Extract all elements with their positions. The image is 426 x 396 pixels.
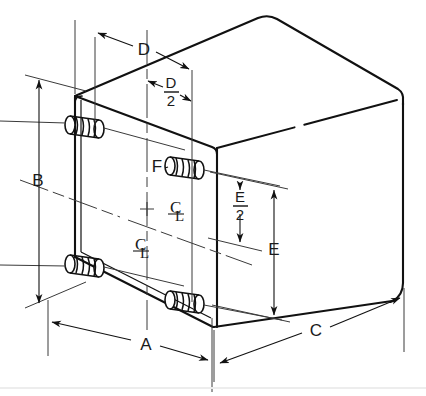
dimline-D2-left [148, 81, 163, 87]
leader-stud-bottomleft [104, 267, 184, 286]
ext-line-e-top [210, 172, 288, 189]
top-face-outline [75, 16, 403, 105]
dim-label-A: A [140, 335, 152, 354]
dim-label-E-over-2: E 2 [233, 188, 248, 223]
enclosure-body [75, 16, 403, 327]
dim-label-E2-denominator: 2 [236, 206, 244, 223]
ext-line-e-bottom [212, 305, 290, 322]
dim-label-F: F [152, 157, 162, 176]
center-cross-mark [140, 202, 154, 216]
dimline-C-right [330, 298, 400, 327]
stud-bottom-right [165, 291, 204, 313]
stud-top-right [165, 157, 204, 179]
top-face-front-edge [217, 100, 397, 148]
dimline-C-left [220, 333, 302, 363]
centerline-symbols: C L C L [133, 198, 184, 261]
technical-drawing: D D 2 B F E 2 E A C C L C L [0, 0, 426, 396]
isometric-drawing-canvas: D D 2 B F E 2 E A C C L C L [0, 0, 426, 396]
dim-label-D2-numerator: D [166, 74, 177, 91]
dim-label-E: E [268, 240, 279, 259]
ext-line-b-bottom [25, 282, 86, 308]
leader-stud-topright [204, 170, 280, 186]
right-face-back-edge [390, 103, 403, 302]
dim-label-D: D [138, 40, 150, 59]
centerline-symbol-horizontal: C L [168, 198, 184, 224]
leader-stud-topleft-out [0, 121, 66, 123]
centerline-symbol-horizontal-l: L [175, 208, 184, 224]
dimline-D-left [98, 33, 133, 46]
right-face-bottom-edge [214, 301, 392, 327]
dim-label-D2-denominator: 2 [167, 92, 175, 109]
centerlines [0, 20, 404, 392]
ext-line-b-top [25, 75, 86, 91]
dimline-D2-right [180, 95, 191, 101]
stud-bottom-left [65, 255, 104, 277]
centerline-symbol-vertical-l: L [140, 245, 149, 261]
dim-label-C: C [310, 321, 322, 340]
dimline-A-right [160, 346, 208, 360]
dimline-A-left [52, 322, 131, 340]
dimension-lines [39, 33, 400, 363]
dim-label-E2-numerator: E [235, 188, 245, 205]
leader-stud-topleft [104, 128, 185, 150]
dim-label-D-over-2: D 2 [164, 74, 179, 109]
dim-label-B: B [32, 171, 43, 190]
leader-stud-left-out [0, 265, 66, 266]
stud-top-left [65, 116, 104, 138]
